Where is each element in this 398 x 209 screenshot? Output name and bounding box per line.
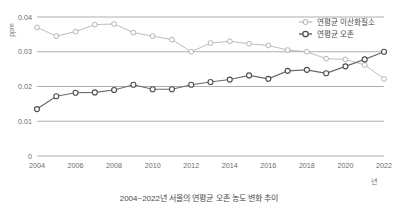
x-axis-unit-label: 년: [371, 177, 377, 185]
legend-marker-icon: [303, 20, 308, 25]
x-axis-tick-labels: 2004200620082010201220142016201820202022: [29, 161, 392, 170]
data-point-o3: [304, 67, 309, 72]
x-tick-label: 2004: [29, 161, 45, 170]
data-point-no2: [131, 30, 136, 35]
chart-figure: 00.010.020.030.04 2004200620082010201220…: [0, 0, 398, 209]
y-tick-label: 0.02: [18, 82, 32, 91]
data-point-o3: [73, 90, 78, 95]
y-tick-label: 0.03: [18, 47, 32, 56]
data-point-o3: [112, 87, 117, 92]
data-point-o3: [324, 71, 329, 76]
data-point-no2: [35, 25, 40, 30]
data-point-o3: [362, 57, 367, 62]
data-point-o3: [92, 90, 97, 95]
x-tick-label: 2008: [106, 161, 122, 170]
x-tick-label: 2018: [299, 161, 315, 170]
data-point-o3: [54, 94, 59, 99]
data-point-no2: [73, 29, 78, 34]
data-point-no2: [189, 49, 194, 54]
data-point-no2: [227, 39, 232, 44]
x-tick-label: 2014: [222, 161, 238, 170]
y-tick-label: 0.04: [18, 13, 32, 22]
figure-caption: 2004~2022년 서울의 연평균 오존 농도 변화 추이: [120, 193, 279, 203]
data-point-o3: [343, 64, 348, 69]
x-tick-label: 2016: [260, 161, 276, 170]
data-point-no2: [150, 34, 155, 39]
line-chart: 00.010.020.030.04 2004200620082010201220…: [0, 0, 398, 209]
data-point-no2: [343, 57, 348, 62]
data-point-no2: [92, 22, 97, 27]
y-tick-label: 0: [28, 152, 32, 161]
x-tick-label: 2012: [183, 161, 199, 170]
y-axis-unit-label: ppm: [8, 23, 16, 37]
data-point-o3: [189, 82, 194, 87]
data-point-o3: [227, 77, 232, 82]
x-tick-label: 2022: [376, 161, 392, 170]
y-axis-tick-labels: 00.010.020.030.04: [18, 13, 32, 161]
data-point-o3: [266, 76, 271, 81]
chart-legend: 연평균 이산화질소연평균 오존: [299, 17, 375, 39]
data-point-o3: [35, 107, 40, 112]
data-point-no2: [382, 76, 387, 81]
data-point-no2: [266, 43, 271, 48]
data-point-no2: [324, 56, 329, 61]
legend-marker-icon: [303, 31, 308, 36]
data-point-no2: [170, 37, 175, 42]
data-point-o3: [247, 73, 252, 78]
data-point-no2: [247, 41, 252, 46]
x-tick-label: 2006: [68, 161, 84, 170]
data-point-no2: [285, 48, 290, 53]
data-point-o3: [285, 68, 290, 73]
data-point-no2: [54, 34, 59, 39]
data-point-o3: [169, 87, 174, 92]
data-point-no2: [112, 22, 117, 27]
x-tick-label: 2010: [145, 161, 161, 170]
legend-label: 연평균 이산화질소: [317, 17, 375, 27]
x-tick-label: 2020: [337, 161, 353, 170]
data-point-o3: [208, 79, 213, 84]
data-point-no2: [208, 41, 213, 46]
data-point-no2: [362, 63, 367, 68]
data-point-no2: [304, 49, 309, 54]
y-tick-label: 0.01: [18, 117, 32, 126]
legend-label: 연평균 오존: [317, 29, 354, 39]
data-point-o3: [131, 82, 136, 87]
data-point-o3: [382, 49, 387, 54]
data-point-o3: [150, 87, 155, 92]
